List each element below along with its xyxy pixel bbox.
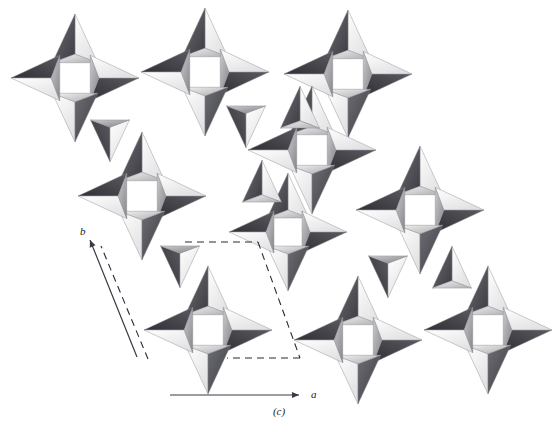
axis-label-a: a [311, 388, 317, 400]
crystal-structure-diagram: a b (c) [0, 0, 558, 442]
figure-caption: (c) [273, 405, 286, 418]
figure-canvas: a b (c) [0, 0, 558, 442]
figure-background [0, 0, 558, 442]
axis-label-b: b [80, 225, 86, 237]
